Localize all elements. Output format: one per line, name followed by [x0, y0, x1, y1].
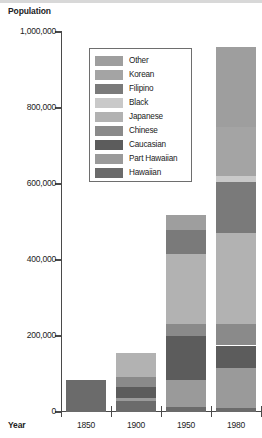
bar-1980[interactable] [216, 32, 256, 412]
y-axis-line [61, 32, 62, 412]
bar-segment-filipino[interactable] [216, 182, 256, 233]
y-tick-mark [55, 259, 62, 260]
chart-legend: OtherKoreanFilipinoBlackJapaneseChineseC… [89, 48, 192, 182]
legend-item[interactable]: Korean [95, 68, 191, 82]
legend-swatch-black [95, 98, 123, 108]
population-stacked-bar-chart: Population 0200,000400,000600,000800,000… [0, 0, 262, 438]
bar-segment-chinese[interactable] [166, 324, 206, 336]
legend-label: Filipino [129, 84, 153, 94]
x-tick-label: 1850 [61, 420, 111, 430]
legend-item[interactable]: Filipino [95, 82, 191, 96]
y-tick-label: 800,000 [27, 102, 56, 112]
legend-label: Chinese [129, 126, 158, 136]
bar-segment-other[interactable] [216, 47, 256, 127]
x-tick-mark [161, 406, 162, 417]
legend-swatch-korean [95, 70, 123, 80]
bar-segment-hawaiian[interactable] [116, 401, 156, 412]
legend-item[interactable]: Hawaiian [95, 166, 191, 180]
y-tick-mark [55, 335, 62, 336]
legend-swatch-caucasian [95, 140, 123, 150]
legend-label: Part Hawaiian [129, 154, 177, 164]
bar-segment-other[interactable] [166, 215, 206, 230]
x-axis-title: Year [8, 420, 26, 430]
legend-swatch-part-hawaiian [95, 154, 123, 164]
bar-segment-caucasian[interactable] [216, 346, 256, 369]
bar-segment-part-hawaiian[interactable] [166, 380, 206, 408]
scan-artifact-line [0, 0, 262, 3]
bar-segment-chinese[interactable] [216, 324, 256, 345]
legend-swatch-hawaiian [95, 168, 123, 178]
x-tick-label: 1900 [111, 420, 161, 430]
x-tick-label: 1950 [161, 420, 211, 430]
bar-segment-hawaiian[interactable] [216, 408, 256, 412]
legend-item[interactable]: Caucasian [95, 138, 191, 152]
legend-swatch-japanese [95, 112, 123, 122]
legend-label: Korean [129, 70, 154, 80]
legend-label: Other [129, 56, 148, 66]
legend-label: Hawaiian [129, 168, 161, 178]
y-tick-label: 1,000,000 [20, 26, 56, 36]
legend-item[interactable]: Japanese [95, 110, 191, 124]
legend-item[interactable]: Other [95, 54, 191, 68]
bar-segment-caucasian[interactable] [166, 336, 206, 380]
legend-item[interactable]: Chinese [95, 124, 191, 138]
x-tick-mark [261, 406, 262, 417]
bar-segment-caucasian[interactable] [116, 387, 156, 397]
legend-swatch-other [95, 56, 123, 66]
y-axis-title: Population [8, 6, 51, 16]
y-tick-label: 0 [51, 406, 56, 416]
bar-segment-black[interactable] [216, 176, 256, 182]
y-tick-label: 400,000 [27, 254, 56, 264]
bar-segment-filipino[interactable] [166, 230, 206, 253]
y-tick-label: 600,000 [27, 178, 56, 188]
bar-segment-japanese[interactable] [216, 233, 256, 324]
bar-segment-hawaiian[interactable] [66, 380, 106, 412]
legend-item[interactable]: Black [95, 96, 191, 110]
legend-label: Black [129, 98, 148, 108]
legend-item-list: OtherKoreanFilipinoBlackJapaneseChineseC… [95, 54, 191, 180]
legend-swatch-chinese [95, 126, 123, 136]
legend-label: Caucasian [129, 140, 166, 150]
legend-swatch-filipino [95, 84, 123, 94]
bar-segment-japanese[interactable] [166, 254, 206, 324]
y-tick-mark [55, 183, 62, 184]
x-tick-mark [61, 406, 62, 417]
x-tick-mark [111, 406, 112, 417]
bar-segment-korean[interactable] [216, 127, 256, 176]
x-tick-mark [211, 406, 212, 417]
y-tick-mark [55, 107, 62, 108]
bar-segment-chinese[interactable] [116, 377, 156, 387]
legend-label: Japanese [129, 112, 163, 122]
bar-segment-japanese[interactable] [116, 353, 156, 377]
y-tick-label: 200,000 [27, 330, 56, 340]
legend-item[interactable]: Part Hawaiian [95, 152, 191, 166]
x-tick-label: 1980 [211, 420, 261, 430]
bar-segment-part-hawaiian[interactable] [216, 368, 256, 408]
y-tick-mark [55, 31, 62, 32]
bar-segment-hawaiian[interactable] [166, 407, 206, 412]
bar-segment-part-hawaiian[interactable] [116, 398, 156, 401]
